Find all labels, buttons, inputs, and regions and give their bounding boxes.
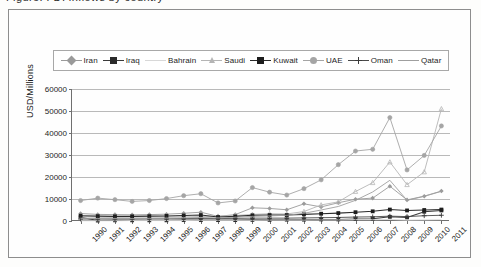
legend-swatch-bahrain-icon bbox=[145, 56, 166, 65]
x-tick-label: 2009 bbox=[416, 225, 435, 244]
legend-item-bahrain[interactable]: Bahrain bbox=[145, 56, 196, 65]
x-tick-label: 2011 bbox=[450, 225, 469, 244]
data-point bbox=[422, 213, 427, 218]
plot-area: 0100002000030000400005000060000 bbox=[71, 89, 449, 221]
y-axis-title: USD/Millions bbox=[25, 64, 35, 118]
data-point bbox=[96, 196, 100, 200]
data-point bbox=[285, 193, 289, 197]
x-tick bbox=[338, 221, 339, 224]
x-tick-label: 1991 bbox=[107, 225, 126, 244]
legend-item-kuwait[interactable]: Kuwait bbox=[250, 56, 298, 65]
data-point bbox=[233, 199, 237, 203]
x-tick-label: 2003 bbox=[313, 225, 332, 244]
legend-label: UAE bbox=[326, 56, 343, 65]
legend-item-iraq[interactable]: Iraq bbox=[103, 56, 140, 65]
chart-legend: IranIraqBahrainSaudiKuwaitUAEOmanQatar bbox=[53, 50, 449, 71]
y-tick-label: 60000 bbox=[45, 85, 67, 94]
x-tick-label: 1996 bbox=[193, 225, 212, 244]
legend-label: Saudi bbox=[224, 56, 245, 65]
legend-item-uae[interactable]: UAE bbox=[303, 56, 343, 65]
x-tick-label: 2007 bbox=[382, 225, 401, 244]
legend-swatch-oman-icon bbox=[348, 56, 369, 65]
x-tick-label: 2005 bbox=[348, 225, 367, 244]
x-tick-label: 2000 bbox=[262, 225, 281, 244]
figure-page: Figure: FDI inflows by country IranIraqB… bbox=[0, 0, 481, 267]
legend-item-oman[interactable]: Oman bbox=[348, 56, 393, 65]
legend-item-iran[interactable]: Iran bbox=[61, 56, 98, 65]
data-point bbox=[371, 209, 375, 213]
y-tick-label: 20000 bbox=[45, 173, 67, 182]
legend-swatch-qatar-icon bbox=[398, 56, 419, 65]
data-point bbox=[302, 202, 307, 207]
legend-swatch-uae-icon bbox=[303, 56, 324, 65]
legend-label: Oman bbox=[371, 56, 393, 65]
plot-wrapper: 0100002000030000400005000060000 19901991… bbox=[71, 89, 449, 221]
x-tick-label: 2002 bbox=[296, 225, 315, 244]
data-point bbox=[439, 189, 444, 194]
x-tick-label: 1990 bbox=[90, 225, 109, 244]
x-tick-label: 2010 bbox=[433, 225, 452, 244]
y-tick bbox=[69, 221, 72, 222]
y-tick-label: 0 bbox=[63, 217, 67, 226]
series-layer bbox=[72, 89, 450, 221]
data-point bbox=[354, 210, 358, 214]
y-tick-label: 30000 bbox=[45, 151, 67, 160]
legend-label: Bahrain bbox=[168, 56, 196, 65]
x-tick-label: 1998 bbox=[227, 225, 246, 244]
data-point bbox=[336, 163, 340, 167]
legend-swatch-kuwait-icon bbox=[250, 56, 271, 65]
data-point bbox=[319, 178, 323, 182]
data-point bbox=[353, 149, 357, 153]
data-point bbox=[371, 147, 375, 151]
x-tick-label: 1994 bbox=[159, 225, 178, 244]
data-point bbox=[388, 208, 392, 212]
x-tick bbox=[356, 221, 357, 224]
x-tick-label: 2008 bbox=[399, 225, 418, 244]
data-point bbox=[113, 198, 117, 202]
data-point bbox=[405, 168, 409, 172]
legend-item-saudi[interactable]: Saudi bbox=[201, 56, 245, 65]
x-tick bbox=[441, 221, 442, 224]
x-tick bbox=[390, 221, 391, 224]
legend-swatch-saudi-icon bbox=[201, 56, 222, 65]
legend-label: Kuwait bbox=[273, 56, 298, 65]
legend-label: Iran bbox=[84, 56, 98, 65]
data-point bbox=[422, 208, 426, 212]
data-point bbox=[439, 124, 443, 128]
x-tick bbox=[407, 221, 408, 224]
data-point bbox=[336, 211, 340, 215]
data-point bbox=[250, 206, 255, 211]
y-tick-label: 50000 bbox=[45, 107, 67, 116]
legend-swatch-iraq-icon bbox=[103, 56, 124, 65]
data-point bbox=[405, 209, 409, 213]
x-tick-label: 1993 bbox=[141, 225, 160, 244]
y-tick-label: 40000 bbox=[45, 129, 67, 138]
data-point bbox=[319, 212, 323, 216]
data-point bbox=[302, 187, 306, 191]
x-tick-label: 1992 bbox=[124, 225, 143, 244]
figure-frame: IranIraqBahrainSaudiKuwaitUAEOmanQatar U… bbox=[8, 9, 471, 258]
data-point bbox=[130, 199, 134, 203]
caption-text: Figure: FDI inflows by country bbox=[6, 0, 306, 3]
x-tick-label: 2004 bbox=[330, 225, 349, 244]
data-point bbox=[147, 198, 151, 202]
y-tick-label: 10000 bbox=[45, 195, 67, 204]
data-point bbox=[250, 185, 254, 189]
x-tick bbox=[424, 221, 425, 224]
data-point bbox=[199, 192, 203, 196]
data-point bbox=[164, 196, 168, 200]
legend-item-qatar[interactable]: Qatar bbox=[398, 56, 442, 65]
x-tick bbox=[81, 221, 82, 224]
data-point bbox=[388, 116, 392, 120]
x-tick bbox=[373, 221, 374, 224]
legend-swatch-iran-icon bbox=[61, 56, 82, 65]
legend-label: Iraq bbox=[126, 56, 140, 65]
legend-label: Qatar bbox=[421, 56, 442, 65]
x-tick-label: 1995 bbox=[176, 225, 195, 244]
x-tick-label: 1997 bbox=[210, 225, 229, 244]
data-point bbox=[78, 198, 82, 202]
series-line bbox=[81, 118, 442, 203]
caption-sliver: Figure: FDI inflows by country bbox=[6, 0, 306, 7]
x-tick-label: 2001 bbox=[279, 225, 298, 244]
data-point bbox=[182, 194, 186, 198]
